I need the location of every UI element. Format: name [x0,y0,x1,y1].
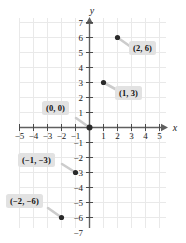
coordinate-plane-figure: −5 −4 −3 −2 −1 1 2 3 4 5 7 6 5 4 3 2 1 −… [0,0,186,243]
x-tick-label: −3 [43,131,53,141]
x-tick-label: −4 [29,131,39,141]
data-point-2-6[interactable] [115,35,120,40]
y-tick-label: 6 [79,33,84,43]
point-label-2-6: (2, 6) [129,41,156,55]
x-tick-label: −5 [15,131,25,141]
data-point-0-0[interactable] [87,125,93,131]
data-point-1-3[interactable] [101,80,106,85]
x-tick-label: 1 [101,131,106,141]
point-label-n1-n3: (−1, −3) [18,153,55,167]
y-tick-label: −4 [73,183,83,193]
x-tick-label: 3 [129,131,134,141]
x-axis-arrowhead [161,124,168,131]
y-tick-label: 3 [79,78,84,88]
y-tick-label: 7 [79,18,84,28]
x-tick-label: −2 [57,131,67,141]
x-axis-label: x [172,122,178,133]
y-tick-label: 5 [79,48,84,58]
y-axis-label: y [89,5,95,16]
y-tick-label: −7 [73,228,83,238]
y-tick-label: −6 [73,213,83,223]
x-tick-label: 5 [157,131,162,141]
data-point-n2-n6[interactable] [59,215,64,220]
y-tick-label: −2 [73,153,83,163]
x-tick-label: 2 [115,131,120,141]
y-tick-label: 2 [79,93,84,103]
point-label-0-0: (0, 0) [42,101,69,115]
x-tick-label: 4 [143,131,148,141]
x-tick-labels: −5 −4 −3 −2 −1 1 2 3 4 5 [15,131,163,141]
point-label-1-3: (1, 3) [115,86,142,100]
y-tick-label: 4 [79,63,84,73]
y-tick-label: −1 [73,138,83,148]
point-label-n2-n6: (−2, −6) [6,194,43,208]
y-tick-label: −5 [73,198,83,208]
y-tick-label: 1 [79,108,84,118]
data-point-n1-n3[interactable] [73,170,78,175]
